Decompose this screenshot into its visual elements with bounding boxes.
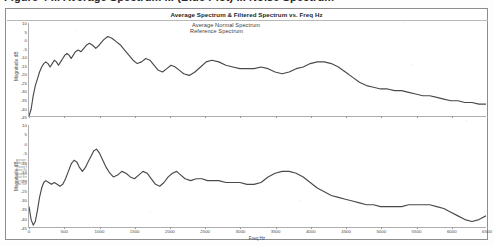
x-tick-mark <box>64 116 65 118</box>
scan-speckle <box>150 212 151 213</box>
y-tick-label: -10 <box>21 55 27 60</box>
x-tick-label: 3500 <box>271 229 281 234</box>
series-label-reference-spectrum: Reference Spectrum <box>190 28 243 34</box>
scan-speckle <box>76 30 77 31</box>
x-tick-mark <box>487 116 488 118</box>
x-tick-label: 4000 <box>306 229 316 234</box>
scan-speckle <box>250 14 251 15</box>
x-tick-mark <box>276 116 277 118</box>
x-tick-label: 3000 <box>236 229 246 234</box>
x-tick-mark <box>100 116 101 118</box>
x-tick-mark <box>205 116 206 118</box>
y-tick-label: -5 <box>23 151 27 156</box>
x-tick-label: 1500 <box>130 229 140 234</box>
y-tick-label: 10 <box>22 123 27 128</box>
x-tick-label: 2500 <box>200 229 210 234</box>
y-tick-label: -15 <box>21 63 27 68</box>
x-tick-label: 4500 <box>341 229 351 234</box>
x-tick-mark <box>417 116 418 118</box>
y-tick-label: -20 <box>21 72 27 77</box>
y-tick-label: -40 <box>21 106 27 111</box>
legend-strip: Average Normal SpectrumReference Spectru… <box>16 159 27 225</box>
y-tick-label: 5 <box>25 29 27 34</box>
x-tick-label: 5000 <box>376 229 386 234</box>
y-tick-label: -35 <box>21 97 27 102</box>
plot-area-reference-spectrum[interactable]: 1050-5-10-15-20-25-30-35-40-450500100015… <box>28 125 486 228</box>
x-tick-label: 1000 <box>95 229 105 234</box>
y-tick-label: -5 <box>23 46 27 51</box>
x-tick-mark <box>346 116 347 118</box>
y-tick-label: -45 <box>21 226 27 231</box>
x-tick-label: 2000 <box>165 229 175 234</box>
figure-frame: Average Spectrum & Filtered Spectrum vs.… <box>5 8 488 240</box>
y-axis-title-top: Magnitude dB <box>14 51 19 81</box>
plot-surface-top <box>29 23 486 116</box>
y-tick-label: 5 <box>25 132 27 137</box>
x-tick-mark <box>311 116 312 118</box>
x-tick-mark <box>29 116 30 118</box>
y-tick-label: 0 <box>25 38 27 43</box>
plot-area-average-normal-spectrum[interactable]: 1050-5-10-15-20-25-30-35-40-45 <box>28 23 486 117</box>
x-tick-mark <box>170 116 171 118</box>
x-tick-label: 0 <box>28 229 30 234</box>
x-tick-mark <box>381 116 382 118</box>
x-axis-title: Freq Hz <box>28 236 486 241</box>
x-tick-label: 6000 <box>447 229 457 234</box>
spectrum-line-bottom <box>29 125 486 227</box>
x-tick-mark <box>452 116 453 118</box>
y-tick-label: -25 <box>21 80 27 85</box>
plot-surface-bottom <box>29 125 486 227</box>
y-tick-label: 0 <box>25 141 27 146</box>
scan-speckle <box>40 176 41 177</box>
legend-strip-item: Raw Samples <box>16 183 25 186</box>
spectrum-line-top <box>29 23 486 116</box>
x-tick-mark <box>240 116 241 118</box>
y-tick-label: -45 <box>21 115 27 120</box>
y-tick-label: -30 <box>21 89 27 94</box>
x-tick-mark <box>135 116 136 118</box>
chart-title: Average Spectrum & Filtered Spectrum vs.… <box>6 11 487 18</box>
y-tick-label: 10 <box>22 21 27 26</box>
figure-page: Figure 4 ... Average Spectrum ... (Blue … <box>0 0 494 246</box>
title-divider <box>7 20 488 21</box>
x-tick-label: 6500 <box>482 229 492 234</box>
x-tick-label: 500 <box>61 229 68 234</box>
document-caption: Figure 4 ... Average Spectrum ... (Blue … <box>4 0 490 3</box>
x-tick-label: 5500 <box>412 229 422 234</box>
